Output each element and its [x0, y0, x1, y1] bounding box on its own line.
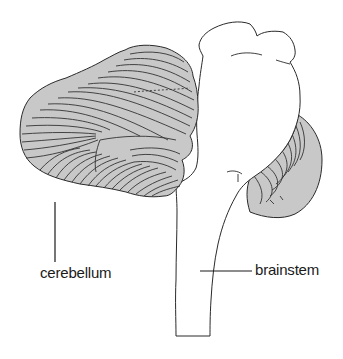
- brainstem-label: brainstem: [255, 262, 319, 277]
- cerebellum-label: cerebellum: [40, 265, 111, 280]
- cerebellum-left-hemisphere: [20, 45, 198, 197]
- anatomy-figure: [0, 0, 343, 359]
